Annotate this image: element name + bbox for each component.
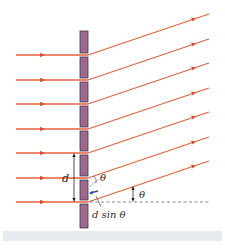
outgoing-rays [88, 14, 209, 202]
label-theta: θ [139, 189, 145, 200]
caption-bar [3, 231, 222, 241]
diffraction-grating-figure: d θ θ d sin θ [0, 0, 225, 249]
label-theta-small: θ [100, 172, 106, 183]
incoming-rays [16, 53, 88, 204]
label-d: d [62, 172, 69, 185]
label-d-sin-theta: d sin θ [92, 209, 126, 220]
